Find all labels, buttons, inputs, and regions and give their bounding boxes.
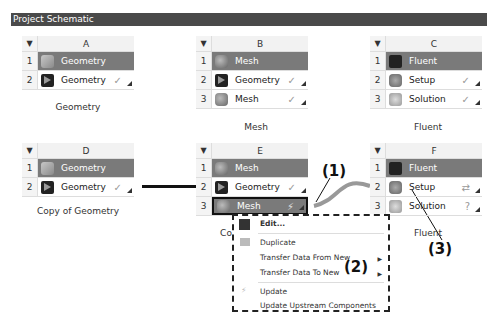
- system-header-cell[interactable]: Fluent: [386, 159, 482, 177]
- edit-icon: [239, 219, 250, 230]
- annotation-1: (1): [322, 162, 346, 180]
- system-f[interactable]: ▼F 1Fluent 2Setup⇄ 3Solution?: [370, 143, 482, 216]
- menu-item-duplicate[interactable]: Duplicate: [260, 238, 296, 247]
- solution-icon: [389, 200, 402, 213]
- annotation-3: (3): [428, 240, 452, 258]
- update-icon: ⚡: [241, 286, 247, 295]
- submenu-arrow-icon: ▶: [377, 255, 382, 262]
- row-number: 3: [370, 197, 386, 215]
- corner-icon: [475, 188, 480, 193]
- menu-item-transfer-to-new[interactable]: Transfer Data To New: [260, 268, 339, 277]
- system-menu-icon[interactable]: ▼: [370, 143, 386, 158]
- system-letter: F: [386, 143, 482, 158]
- menu-item-edit[interactable]: Edit...: [260, 219, 285, 228]
- duplicate-icon: [240, 238, 250, 246]
- submenu-arrow-icon: ▶: [377, 270, 382, 277]
- setup-cell[interactable]: Setup⇄: [386, 178, 482, 196]
- row-number: 2: [370, 178, 386, 196]
- annotation-2: (2): [344, 258, 368, 276]
- fluent-icon: [389, 162, 402, 175]
- menu-item-transfer-from-new[interactable]: Transfer Data From New: [260, 253, 350, 262]
- unfulfilled-icon: ?: [465, 201, 470, 212]
- corner-icon: [475, 207, 480, 212]
- menu-item-update-upstream[interactable]: Update Upstream Components: [260, 301, 376, 310]
- solution-cell[interactable]: Solution?: [386, 197, 482, 215]
- setup-icon: [389, 181, 402, 194]
- cell-label: Setup: [409, 182, 435, 192]
- cell-label: Solution: [409, 201, 446, 211]
- row-number: 1: [370, 159, 386, 177]
- cell-label: Fluent: [409, 163, 437, 173]
- menu-item-update[interactable]: Update: [260, 287, 287, 296]
- refresh-required-icon: ⇄: [462, 182, 470, 193]
